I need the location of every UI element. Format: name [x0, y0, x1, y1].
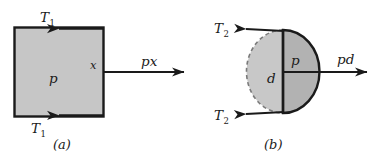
square-side-length-label: x [90, 58, 97, 72]
figure-container: p x T 1 T 1 px (a) [0, 0, 381, 161]
bottom-tension-label-group: T 1 [31, 120, 46, 139]
circle-diameter-label: d [267, 70, 276, 86]
square-shape [15, 28, 104, 117]
panel-b-caption: (b) [264, 137, 282, 152]
top-tension-arrow [246, 29, 284, 31]
bottom-tension-subscript: 1 [41, 129, 46, 139]
top-tension-label: T [40, 9, 50, 25]
top-tension-subscript: 2 [224, 29, 229, 39]
circle-left-half-dashed [247, 30, 284, 113]
top-tension-label: T [214, 20, 224, 36]
top-tension-subscript: 1 [50, 18, 55, 28]
circle-pressure-label: p [291, 52, 300, 68]
square-pressure-label: p [49, 70, 58, 86]
bottom-tension-label: T [31, 120, 41, 136]
bottom-tension-label-group: T 2 [214, 107, 229, 126]
bottom-tension-subscript: 2 [224, 116, 229, 126]
physics-diagram: p x T 1 T 1 px (a) [0, 0, 381, 161]
top-tension-label-group: T 1 [40, 9, 55, 28]
panel-a: p x T 1 T 1 px (a) [15, 9, 185, 152]
pressure-resultant-label: pd [337, 51, 355, 67]
panel-a-caption: (a) [53, 137, 71, 152]
bottom-tension-label: T [214, 107, 224, 123]
panel-b: p d T 2 T 2 pd (b) [214, 20, 367, 152]
pressure-resultant-label: px [141, 53, 158, 69]
top-tension-label-group: T 2 [214, 20, 229, 39]
bottom-tension-arrow [246, 112, 284, 114]
